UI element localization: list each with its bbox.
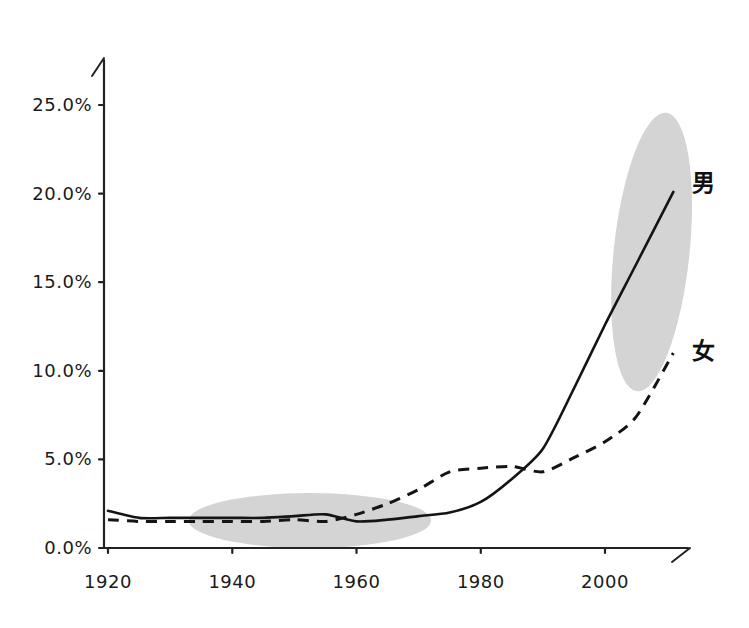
series-line-1 <box>108 192 673 522</box>
x-tick-label: 1920 <box>84 571 132 592</box>
series-labels-group: 男女 <box>692 170 715 364</box>
x-axis-tick-labels: 19201940196019802000 <box>84 571 629 592</box>
y-tick-label: 25.0% <box>32 94 92 115</box>
chart-axes <box>92 58 690 562</box>
y-tick-label: 0.0% <box>44 537 92 558</box>
y-tick-label: 5.0% <box>44 448 92 469</box>
x-axis-arrowhead <box>672 548 690 562</box>
x-tick-label: 1980 <box>457 571 505 592</box>
chart-canvas: 0.0%5.0%10.0%15.0%20.0%25.0% 19201940196… <box>0 0 749 628</box>
y-tick-label: 20.0% <box>32 183 92 204</box>
y-axis-tick-labels: 0.0%5.0%10.0%15.0%20.0%25.0% <box>32 94 92 558</box>
highlight-annotations <box>189 109 704 548</box>
data-series-group <box>108 192 673 522</box>
y-tick-label: 15.0% <box>32 271 92 292</box>
line-chart: 0.0%5.0%10.0%15.0%20.0%25.0% 19201940196… <box>0 0 749 628</box>
x-tick-label: 2000 <box>581 571 629 592</box>
series-label-2: 女 <box>692 338 715 364</box>
series-line-2 <box>108 353 673 521</box>
series-label-1: 男 <box>692 170 715 196</box>
recent-period-highlight <box>599 109 704 395</box>
x-tick-label: 1940 <box>208 571 256 592</box>
x-tick-label: 1960 <box>333 571 381 592</box>
y-tick-label: 10.0% <box>32 360 92 381</box>
y-axis-arrowhead <box>92 58 104 76</box>
